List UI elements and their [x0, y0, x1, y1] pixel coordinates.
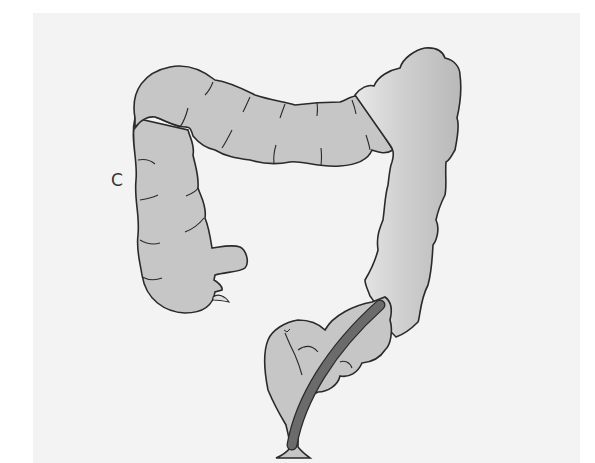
sigmoid-colon-shape — [265, 297, 392, 458]
appendix — [213, 295, 229, 302]
descending-colon-shape — [355, 48, 461, 337]
descending-colon — [355, 48, 461, 337]
colon-diagram — [0, 0, 595, 463]
sigmoid-colon — [265, 297, 392, 458]
